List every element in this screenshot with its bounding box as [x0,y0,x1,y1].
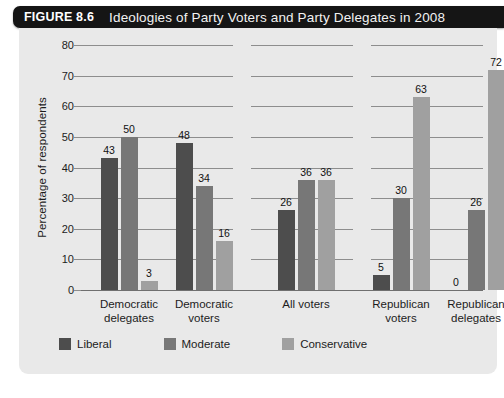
bar [373,275,390,290]
gridline [251,45,353,46]
gridline [79,45,233,46]
page-title: Ideologies of Party Voters and Party Del… [109,10,445,25]
bar-value-label: 36 [320,166,332,178]
bar-value-label: 0 [453,276,459,288]
bar-value-label: 34 [198,172,210,184]
y-tick-label: 60 [62,100,74,112]
y-tick-label: 40 [62,162,74,174]
bar [121,137,138,290]
bar [101,158,118,290]
x-axis-group-label-line: voters [175,312,233,326]
x-axis-line [79,290,483,291]
x-axis-group-label-line: delegates [100,312,158,326]
y-tick-label: 20 [62,223,74,235]
x-axis-group-label-line: Republican [372,298,430,312]
bar [298,180,315,290]
bar [141,281,158,290]
x-axis-group-label-line: Democratic [100,298,158,312]
bar [278,210,295,290]
x-axis-group-label: Republicandelegates [447,298,504,325]
y-tick-mark [74,168,81,169]
x-axis-group-label-line: Republican [447,298,504,312]
bar-value-label: 26 [280,196,292,208]
x-axis-group-label-line: All voters [282,298,329,312]
x-axis-group-label-line: Democratic [175,298,233,312]
legend-label: Conservative [300,338,367,350]
y-tick-mark [74,259,81,260]
x-axis-group-label: All voters [282,298,329,312]
legend-swatch-icon [282,338,294,350]
bar-value-label: 36 [300,166,312,178]
legend-label: Moderate [182,338,231,350]
plot-area: 01020304050607080 4350348341626363653063… [81,45,481,290]
bar-value-label: 3 [146,267,152,279]
bar-value-label: 5 [378,261,384,273]
gridline [79,137,233,138]
y-tick-mark [74,198,81,199]
y-tick-label: 50 [62,131,74,143]
bar-value-label: 30 [395,184,407,196]
y-tick-label: 10 [62,253,74,265]
bar-value-label: 63 [415,83,427,95]
x-axis-group-label: Democraticdelegates [100,298,158,325]
gridline [371,45,483,46]
chart-legend: LiberalModerateConservative [59,338,419,350]
x-axis-group-label: Republicanvoters [372,298,430,325]
figure-title-bar: FIGURE 8.6 Ideologies of Party Voters an… [13,6,504,28]
bar-value-label: 72 [490,56,502,68]
legend-item-moderate: Moderate [164,338,231,350]
bar-value-label: 48 [178,129,190,141]
bar-value-label: 16 [218,227,230,239]
x-axis-group-label-line: delegates [447,312,504,326]
y-tick-mark [74,290,81,291]
bar [468,210,485,290]
y-tick-label: 80 [62,39,74,51]
y-tick-label: 30 [62,192,74,204]
bar [393,198,410,290]
legend-swatch-icon [59,338,71,350]
figure-page: FIGURE 8.6 Ideologies of Party Voters an… [0,0,504,398]
bar [196,186,213,290]
bar-value-label: 43 [103,144,115,156]
x-axis-group-label: Democraticvoters [175,298,233,325]
y-tick-mark [74,137,81,138]
y-tick-mark [74,45,81,46]
legend-swatch-icon [164,338,176,350]
gridline [371,76,483,77]
bar [176,143,193,290]
bar-value-label: 50 [123,123,135,135]
figure-number: FIGURE 8.6 [24,10,94,24]
y-tick-mark [74,106,81,107]
x-axis-group-label-line: voters [372,312,430,326]
y-tick-mark [74,76,81,77]
gridline [251,106,353,107]
chart-panel: Percentage of respondents 01020304050607… [19,28,497,374]
gridline [79,106,233,107]
bar-value-label: 26 [470,196,482,208]
legend-item-conservative: Conservative [282,338,367,350]
gridline [79,76,233,77]
y-axis-label: Percentage of respondents [36,45,50,290]
bar [488,70,504,291]
bar [413,97,430,290]
legend-label: Liberal [77,338,112,350]
bar [216,241,233,290]
y-tick-mark [74,229,81,230]
gridline [251,76,353,77]
legend-item-liberal: Liberal [59,338,112,350]
bar [318,180,335,290]
y-tick-label: 70 [62,70,74,82]
gridline [251,137,353,138]
